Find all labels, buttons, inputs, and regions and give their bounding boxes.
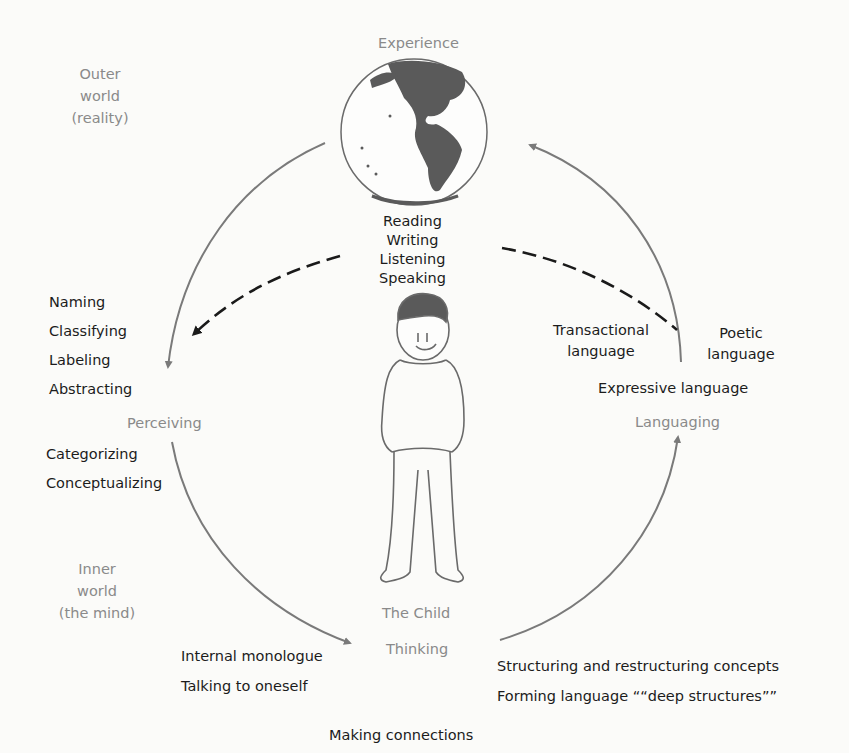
experience-label: Experience bbox=[378, 34, 459, 52]
center-activities-list: Reading Writing Listening Speaking bbox=[360, 212, 465, 288]
child-figure-icon bbox=[381, 294, 464, 582]
inner-world-label: Inner world (the mind) bbox=[52, 558, 142, 624]
perceiving-lower-list: Categorizing Conceptualizing bbox=[46, 440, 162, 498]
arc-perceiving-to-thinking bbox=[172, 442, 350, 643]
expressive-language-label: Expressive language bbox=[598, 379, 748, 397]
activity-reading: Reading bbox=[360, 212, 465, 231]
the-child-label: The Child bbox=[382, 604, 450, 622]
transactional-language-label: Transactional language bbox=[545, 320, 657, 362]
making-connections-label: Making connections bbox=[329, 726, 473, 744]
activity-listening: Listening bbox=[360, 250, 465, 269]
languaging-label: Languaging bbox=[635, 413, 720, 431]
dashed-arrow-to-perceiving bbox=[194, 256, 340, 334]
dashed-line-to-language bbox=[502, 248, 677, 330]
activity-speaking: Speaking bbox=[360, 269, 465, 288]
poetic-language-label: Poetic language bbox=[705, 323, 777, 365]
activity-writing: Writing bbox=[360, 231, 465, 250]
thinking-left-list: Internal monologue Talking to oneself bbox=[181, 641, 323, 701]
arc-thinking-to-languaging bbox=[500, 437, 678, 640]
arc-experience-to-perceiving bbox=[168, 143, 325, 367]
perceiving-upper-list: Naming Classifying Labeling Abstracting bbox=[49, 288, 132, 404]
globe-icon bbox=[341, 59, 487, 205]
perceiving-label: Perceiving bbox=[127, 414, 202, 432]
outer-world-label: Outer world (reality) bbox=[65, 63, 135, 129]
thinking-right-list: Structuring and restructuring concepts F… bbox=[497, 651, 779, 711]
thinking-label: Thinking bbox=[386, 640, 448, 658]
